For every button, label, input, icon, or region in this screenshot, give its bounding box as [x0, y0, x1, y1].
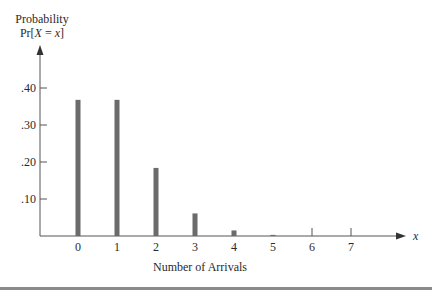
y-tick-label: .10 — [21, 192, 36, 206]
bar-0 — [76, 100, 81, 236]
bar-5 — [271, 235, 276, 236]
y-axis — [37, 45, 44, 236]
x-tick-label: 6 — [309, 240, 315, 254]
x-axis-label: Number of Arrivals — [153, 260, 247, 274]
bar-2 — [154, 168, 159, 236]
bars: 01234567 — [75, 100, 354, 254]
poisson-bar-chart: Probability Pr[X = x] x .10.20.30.40 012… — [0, 0, 432, 290]
y-tick-label: .40 — [21, 81, 36, 95]
y-tick-label: .30 — [21, 118, 36, 132]
x-tick-label: 5 — [270, 240, 276, 254]
y-tick-label: .20 — [21, 155, 36, 169]
x-axis-arrow-icon — [396, 233, 406, 240]
x-axis-symbol: x — [412, 229, 419, 243]
bar-4 — [232, 230, 237, 236]
y-axis-label-line2: Pr[X = x] — [20, 26, 64, 40]
x-axis: x — [40, 229, 419, 243]
x-tick-label: 7 — [348, 240, 354, 254]
y-ticks: .10.20.30.40 — [21, 81, 47, 206]
y-axis-label-line1: Probability — [15, 12, 68, 26]
x-tick-label: 3 — [192, 240, 198, 254]
bar-3 — [193, 213, 198, 236]
x-tick-label: 0 — [75, 240, 81, 254]
x-tick-label: 2 — [153, 240, 159, 254]
x-tick-label: 1 — [114, 240, 120, 254]
x-tick-label: 4 — [231, 240, 237, 254]
bar-1 — [115, 100, 120, 236]
y-axis-arrow-icon — [37, 45, 44, 55]
